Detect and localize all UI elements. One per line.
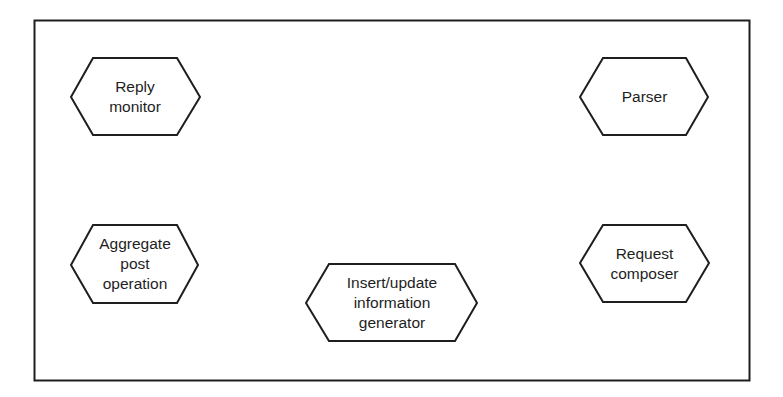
node-label-line: Insert/update [347, 273, 437, 293]
node-label-line: information [354, 293, 431, 313]
node-request-composer: Request composer [603, 225, 686, 302]
node-label-line: monitor [109, 97, 161, 117]
diagram-canvas: Reply monitor Parser Aggregate post oper… [0, 0, 783, 397]
node-label-line: Reply [115, 77, 155, 97]
node-aggregate-post-operation: Aggregate post operation [88, 225, 182, 303]
node-reply-monitor: Reply monitor [93, 58, 177, 135]
node-parser: Parser [603, 58, 686, 135]
node-label-line: Aggregate [99, 234, 171, 254]
node-label-line: generator [359, 313, 425, 333]
node-insert-update-information-generator: Insert/update information generator [329, 264, 455, 341]
node-label-line: composer [610, 264, 678, 284]
node-label-line: post [120, 254, 149, 274]
node-label-line: operation [103, 274, 168, 294]
node-label-line: Parser [622, 87, 668, 107]
node-label-line: Request [616, 244, 674, 264]
